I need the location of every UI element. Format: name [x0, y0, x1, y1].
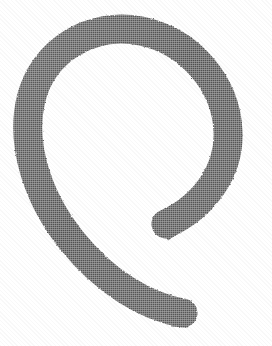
glyph-canvas-svg [0, 0, 272, 346]
image-canvas [0, 0, 272, 346]
glyph-inner-terminal [160, 219, 174, 229]
glyph-tail-terminal [172, 313, 189, 314]
